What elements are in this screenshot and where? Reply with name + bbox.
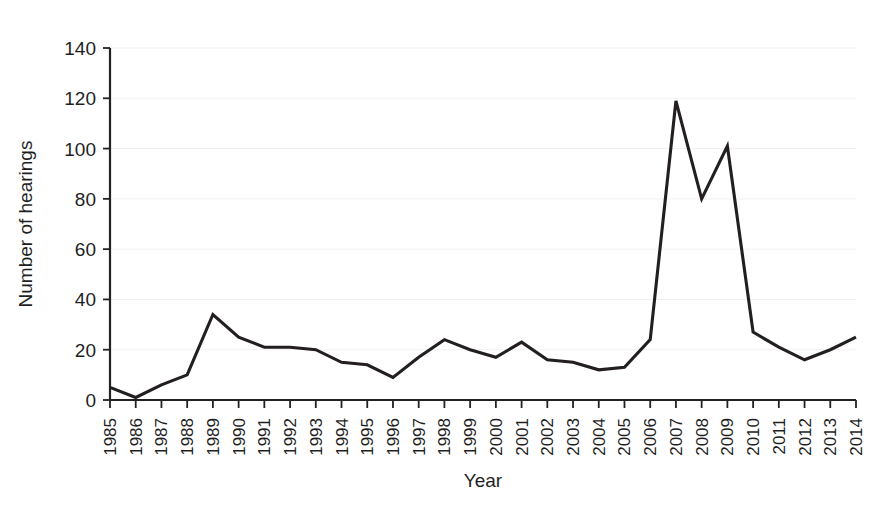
y-tick-label-80: 80: [75, 189, 96, 210]
x-tick-label-1986: 1986: [127, 418, 146, 456]
x-tick-label-2000: 2000: [487, 418, 506, 456]
y-tick-label-40: 40: [75, 289, 96, 310]
x-tick-label-1989: 1989: [204, 418, 223, 456]
x-tick-label-1997: 1997: [410, 418, 429, 456]
x-tick-label-2013: 2013: [821, 418, 840, 456]
y-tick-label-20: 20: [75, 340, 96, 361]
x-tick-label-1994: 1994: [333, 418, 352, 456]
x-tick-label-1995: 1995: [358, 418, 377, 456]
x-tick-label-2002: 2002: [538, 418, 557, 456]
x-tick-label-2008: 2008: [693, 418, 712, 456]
x-tick-label-2003: 2003: [564, 418, 583, 456]
x-tick-label-2014: 2014: [847, 418, 866, 456]
y-tick-label-100: 100: [64, 139, 96, 160]
x-tick-label-1992: 1992: [281, 418, 300, 456]
y-tick-label-140: 140: [64, 38, 96, 59]
line-chart: 020406080100120140 198519861987198819891…: [0, 0, 878, 506]
x-tick-label-1998: 1998: [435, 418, 454, 456]
x-tick-label-1996: 1996: [384, 418, 403, 456]
x-tick-label-2007: 2007: [667, 418, 686, 456]
x-tick-label-1990: 1990: [230, 418, 249, 456]
x-tick-label-1985: 1985: [101, 418, 120, 456]
x-tick-label-1993: 1993: [307, 418, 326, 456]
chart-container: 020406080100120140 198519861987198819891…: [0, 0, 878, 506]
x-tick-label-2009: 2009: [718, 418, 737, 456]
x-tick-label-2005: 2005: [615, 418, 634, 456]
x-tick-label-2012: 2012: [796, 418, 815, 456]
x-tick-label-1988: 1988: [178, 418, 197, 456]
x-tick-label-2011: 2011: [770, 418, 789, 455]
x-tick-label-2006: 2006: [641, 418, 660, 456]
y-tick-label-60: 60: [75, 239, 96, 260]
x-tick-label-2010: 2010: [744, 418, 763, 456]
x-tick-label-1991: 1991: [255, 418, 274, 456]
x-tick-label-2001: 2001: [513, 418, 532, 456]
y-axis-title: Number of hearings: [15, 141, 36, 308]
x-tick-label-1987: 1987: [152, 418, 171, 456]
y-tick-label-0: 0: [85, 390, 96, 411]
y-tick-label-120: 120: [64, 88, 96, 109]
x-tick-label-1999: 1999: [461, 418, 480, 456]
x-axis-title: Year: [464, 470, 503, 491]
x-tick-label-2004: 2004: [590, 418, 609, 456]
